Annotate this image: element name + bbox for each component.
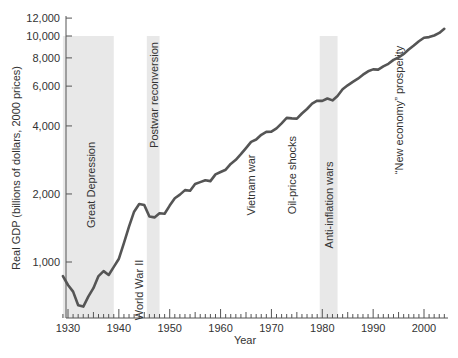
y-tick-label: 2,000: [32, 188, 60, 200]
x-tick-label: 1940: [107, 322, 131, 334]
y-tick-label: 1,000: [32, 256, 60, 268]
x-tick-label: 1970: [259, 322, 283, 334]
x-tick-label: 1980: [310, 322, 334, 334]
x-tick-label: 1990: [361, 322, 385, 334]
annotation-label: World War II: [133, 260, 145, 321]
x-tick-label: 1930: [56, 322, 80, 334]
x-tick-label: 1960: [208, 322, 232, 334]
y-tick-label: 8,000: [32, 52, 60, 64]
x-axis-title: Year: [234, 334, 257, 346]
annotation-label: Oil-price shocks: [286, 135, 298, 214]
annotation-label: Vietnam war: [245, 154, 257, 215]
annotation-label: Great Depression: [85, 142, 97, 228]
annotation-label: Postwar reconversion: [148, 42, 160, 148]
annotation-label: “New economy” prosperity: [393, 45, 405, 174]
x-tick-label: 1950: [157, 322, 181, 334]
y-axis-title: Real GDP (billions of dollars, 2000 pric…: [10, 66, 22, 270]
annotation-label: Anti-inflation wars: [323, 161, 335, 248]
y-tick-label: 4,000: [32, 120, 60, 132]
gdp-chart: 1,0002,0004,0006,0008,00010,00012,000193…: [0, 0, 458, 358]
y-tick-label: 10,000: [26, 30, 60, 42]
y-tick-label: 12,000: [26, 12, 60, 24]
x-tick-label: 2000: [412, 322, 436, 334]
period-annotations: Great DepressionWorld War IIPostwar reco…: [85, 42, 405, 320]
y-tick-label: 6,000: [32, 80, 60, 92]
